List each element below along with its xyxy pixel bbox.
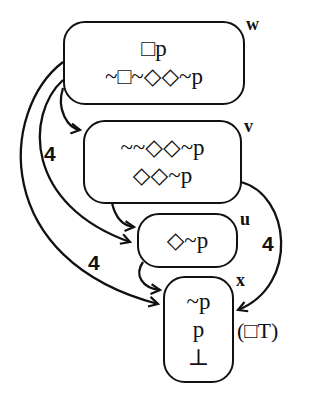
- rule-annotation: (□T): [237, 318, 278, 344]
- world-label-u: u: [240, 209, 250, 230]
- world-v: ~~◇◇~p ◇◇~p: [83, 120, 242, 204]
- formula: ⊥: [188, 344, 210, 372]
- formula: ~~◇◇~p: [120, 134, 204, 162]
- formula: ◇~p: [167, 227, 209, 255]
- formula: p: [193, 316, 205, 344]
- world-label-v: v: [244, 116, 253, 137]
- world-w: □p ~□~◇◇~p: [63, 21, 245, 105]
- formula: ~□~◇◇~p: [105, 63, 203, 91]
- world-label-x: x: [236, 270, 245, 291]
- edge-label-w-x: 4: [88, 251, 100, 275]
- arrow-v-to-u: [112, 203, 134, 227]
- world-u: ◇~p: [137, 213, 238, 268]
- formula: ~p: [187, 288, 211, 316]
- formula: □p: [141, 35, 166, 63]
- formula: ◇◇~p: [133, 162, 192, 190]
- world-x: ~p p ⊥: [163, 276, 234, 383]
- world-label-w: w: [246, 14, 259, 35]
- edge-label-w-u: 4: [44, 142, 56, 166]
- edge-label-v-x: 4: [262, 232, 274, 256]
